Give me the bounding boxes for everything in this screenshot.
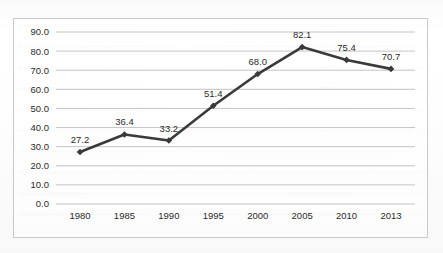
x-axis-tick-label: 1985 <box>114 210 135 221</box>
data-point-label: 68.0 <box>248 56 267 67</box>
data-series <box>80 47 391 152</box>
x-axis-tick-label: 2010 <box>336 210 357 221</box>
data-point-label: 36.4 <box>115 116 134 127</box>
series-line-path <box>80 47 391 152</box>
y-axis-tick-label: 60.0 <box>31 84 50 95</box>
gridlines <box>56 32 415 204</box>
data-point-label: 51.4 <box>204 88 223 99</box>
x-axis-tick-label: 2000 <box>247 210 268 221</box>
y-axis-tick-label: 0.0 <box>36 198 49 209</box>
data-point-marker <box>77 149 84 156</box>
data-point-marker <box>388 66 395 73</box>
data-point-markers <box>77 44 395 156</box>
x-axis-tick-label: 1995 <box>203 210 224 221</box>
y-axis-tick-label: 80.0 <box>31 46 50 57</box>
y-axis-tick-label: 10.0 <box>31 179 50 190</box>
data-point-label: 27.2 <box>71 134 90 145</box>
data-point-label: 33.2 <box>160 123 179 134</box>
chart-plot-frame: 90.080.070.060.050.040.030.020.010.00.0 … <box>13 18 428 238</box>
y-axis-tick-label: 70.0 <box>31 65 50 76</box>
y-axis-tick-label: 30.0 <box>31 141 50 152</box>
y-axis-tick-label: 40.0 <box>31 122 50 133</box>
x-axis-tick-label: 1980 <box>69 210 90 221</box>
y-axis-tick-label: 50.0 <box>31 103 50 114</box>
data-point-marker <box>343 57 350 64</box>
x-axis-tick-labels: 19801985199019952000200520102013 <box>69 210 401 221</box>
data-point-label: 70.7 <box>382 51 401 62</box>
x-axis-tick-label: 2005 <box>292 210 313 221</box>
x-axis-tick-label: 1990 <box>158 210 179 221</box>
chart-screenshot: 90.080.070.060.050.040.030.020.010.00.0 … <box>0 0 443 253</box>
y-axis-tick-label: 20.0 <box>31 160 50 171</box>
line-chart: 90.080.070.060.050.040.030.020.010.00.0 … <box>14 19 427 237</box>
y-axis-tick-label: 90.0 <box>31 26 50 37</box>
data-point-label: 75.4 <box>337 42 356 53</box>
x-axis-tick-label: 2013 <box>380 210 401 221</box>
data-point-label: 82.1 <box>293 29 312 40</box>
y-axis-tick-labels: 90.080.070.060.050.040.030.020.010.00.0 <box>31 26 50 209</box>
